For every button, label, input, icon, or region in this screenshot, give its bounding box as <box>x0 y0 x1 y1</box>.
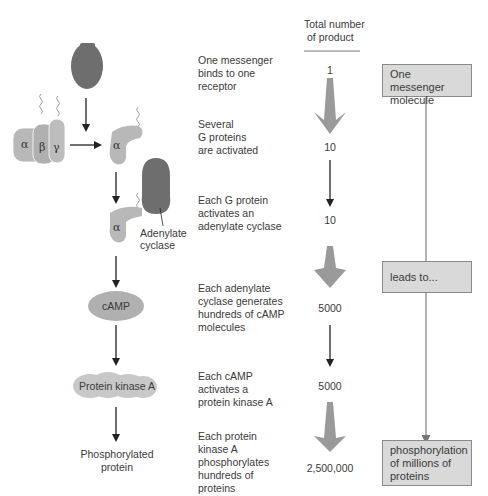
adenylate-label: Adenylate <box>140 227 187 239</box>
phosphorylated-label: Phosphorylated <box>81 448 154 460</box>
step-text-line: protein kinase A <box>198 396 273 409</box>
step-text-line: G proteins <box>198 131 258 144</box>
step-text-line: cyclase generates <box>198 295 284 308</box>
svg-text:γ: γ <box>53 141 60 154</box>
step-text-line: Each cAMP <box>198 370 273 383</box>
step-text-line: activates an <box>198 207 281 220</box>
summary-box-phosphorylation: phosphorylation of millions of proteins <box>382 440 472 486</box>
column-header: Total number of product <box>304 18 384 44</box>
column-header-line1: Total number <box>304 18 384 31</box>
step-text-line: Each protein <box>198 430 269 443</box>
cyclase-label: cyclase <box>140 239 175 251</box>
step-2-description: Several G proteins are activated <box>198 118 258 157</box>
summary-box-leads-to: leads to... <box>382 261 472 293</box>
summary-text-line: molecule <box>390 94 464 107</box>
messenger-molecule-icon <box>71 43 103 89</box>
summary-text-line: leads to... <box>390 271 464 284</box>
amplification-arrow-3 <box>314 246 346 288</box>
camp-label: cAMP <box>102 300 130 312</box>
svg-text:α: α <box>21 138 29 151</box>
svg-text:α: α <box>113 221 121 234</box>
count-step-1: 1 <box>290 64 370 76</box>
step-text-line: are activated <box>198 144 258 157</box>
step-text-line: phosphorylates <box>198 456 269 469</box>
protein-label: protein <box>101 461 133 473</box>
step-text-line: Several <box>198 118 258 131</box>
summary-text-line: phosphorylation <box>390 444 464 457</box>
svg-text:α: α <box>113 139 121 152</box>
step-3-description: Each G protein activates an adenylate cy… <box>198 194 281 233</box>
column-header-line2: of product <box>304 31 384 44</box>
step-5-description: Each cAMP activates a protein kinase A <box>198 370 273 409</box>
step-text-line: activates a <box>198 383 273 396</box>
protein-kinase-a-icon: Protein kinase A <box>73 372 157 398</box>
step-text-line: proteins <box>198 482 269 495</box>
summary-box-messenger: One messenger molecule <box>382 64 472 97</box>
summary-text-line: One messenger <box>390 68 464 94</box>
g-protein-complex-icon: α β γ <box>13 94 65 164</box>
step-4-description: Each adenylate cyclase generates hundred… <box>198 282 284 334</box>
pka-label: Protein kinase A <box>79 380 155 392</box>
amplification-arrow-1 <box>314 78 346 134</box>
step-text-line: binds to one <box>198 67 273 80</box>
step-6-description: Each protein kinase A phosphorylates hun… <box>198 430 269 495</box>
summary-text-line: proteins <box>390 470 464 483</box>
g-alpha-subunit-icon: α <box>110 107 143 164</box>
step-text-line: Each G protein <box>198 194 281 207</box>
amplification-arrow-5 <box>314 402 346 452</box>
count-step-4: 5000 <box>290 302 370 314</box>
step-text-line: adenylate cyclase <box>198 220 281 233</box>
count-step-5: 5000 <box>290 380 370 392</box>
step-text-line: molecules <box>198 321 284 334</box>
count-step-3: 10 <box>290 214 370 226</box>
count-step-6: 2,500,000 <box>290 462 370 474</box>
count-step-2: 10 <box>290 141 370 153</box>
step-text-line: receptor <box>198 80 273 93</box>
step-text-line: hundreds of cAMP <box>198 308 284 321</box>
summary-text-line: of millions of <box>390 457 464 470</box>
svg-text:β: β <box>39 141 45 154</box>
camp-icon: cAMP <box>88 291 144 321</box>
step-1-description: One messenger binds to one receptor <box>198 54 273 93</box>
step-text-line: One messenger <box>198 54 273 67</box>
adenylate-cyclase-icon: α Adenylate cyclase <box>110 158 187 251</box>
step-text-line: Each adenylate <box>198 282 284 295</box>
step-text-line: kinase A <box>198 443 269 456</box>
step-text-line: hundreds of <box>198 469 269 482</box>
